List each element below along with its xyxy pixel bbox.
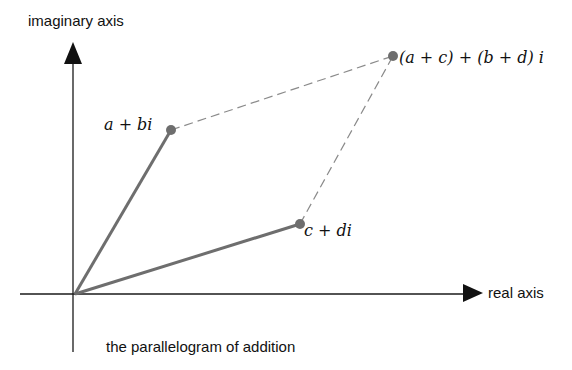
dashed-side-right	[300, 56, 393, 224]
point-sum	[388, 51, 398, 61]
label-a-bi: a + bi	[104, 115, 152, 134]
point-a-bi	[166, 125, 176, 135]
parallelogram-diagram: imaginary axis real axis the parallelogr…	[0, 0, 572, 370]
dashed-side-top	[171, 56, 393, 130]
imaginary-axis-label: imaginary axis	[28, 12, 124, 29]
label-sum: (a + c) + (b + d) i	[399, 48, 544, 67]
imaginary-axis-arrow-icon	[64, 42, 82, 64]
label-c-di: c + di	[304, 221, 352, 240]
caption: the parallelogram of addition	[106, 338, 295, 355]
real-axis-label: real axis	[488, 284, 544, 301]
real-axis-arrow-icon	[463, 284, 483, 302]
